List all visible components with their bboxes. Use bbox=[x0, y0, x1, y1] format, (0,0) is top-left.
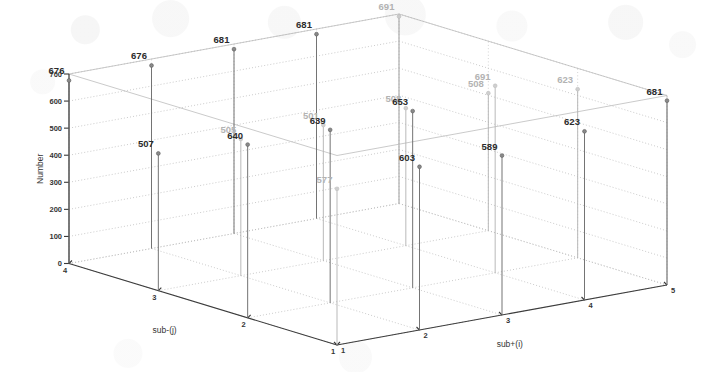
floor-line-i-3 bbox=[234, 234, 502, 316]
stem-j2-i2: 639 bbox=[310, 115, 332, 303]
stem-layer: 6915086236816815086916236815016535896765… bbox=[49, 1, 669, 345]
stem-value-label-j1-i2: 603 bbox=[399, 152, 415, 163]
grid-line-z-400 bbox=[399, 95, 667, 176]
stem-marker-j1-i4 bbox=[583, 129, 587, 133]
z-tick-label-0: 0 bbox=[58, 259, 62, 268]
j-tick-label-2: 2 bbox=[242, 320, 246, 329]
i-tick-label-3: 3 bbox=[506, 316, 510, 325]
stem-value-label-j1-i5: 681 bbox=[647, 86, 664, 97]
stem-j3-i4: 508 bbox=[385, 93, 407, 246]
z-tick-label-200: 200 bbox=[49, 205, 62, 214]
grid-line-z-500 bbox=[399, 68, 667, 149]
floor-line-i-4 bbox=[317, 219, 585, 301]
stem-j4-i2: 676 bbox=[131, 50, 153, 248]
plot-canvas: 6915086236816815086916236815016535896765… bbox=[0, 0, 711, 372]
i-axis-title: sub+(i) bbox=[497, 339, 523, 349]
floor-line-i-5 bbox=[399, 204, 667, 286]
stem-value-label-j4-i3: 681 bbox=[214, 34, 231, 45]
stem-j2-i4: 691 bbox=[475, 71, 497, 273]
i-tick-label-4: 4 bbox=[588, 301, 593, 310]
stem-value-label-j4-i5: 691 bbox=[379, 1, 396, 12]
box-top-back-j bbox=[399, 14, 667, 96]
stem-marker-j2-i5 bbox=[576, 87, 580, 91]
stem-j2-i3: 653 bbox=[392, 96, 414, 288]
j-tick-label-3: 3 bbox=[152, 293, 156, 302]
stem-j3-i1: 507 bbox=[138, 138, 160, 290]
stem-marker-j1-i3 bbox=[500, 154, 504, 158]
grid-line-z-200 bbox=[399, 149, 667, 231]
stem-value-label-j2-i5: 623 bbox=[557, 74, 573, 85]
stem-value-label-j4-i4: 681 bbox=[296, 19, 313, 30]
stem-marker-j2-i4 bbox=[493, 84, 497, 88]
z-axis-title: Number bbox=[35, 153, 45, 183]
stem-value-label-j1-i4: 623 bbox=[564, 116, 580, 127]
tick-label-layer: 0100200300400500600700Number4321sub-(j)1… bbox=[35, 70, 675, 356]
j-axis bbox=[69, 264, 337, 346]
stem-marker-j4-i5 bbox=[397, 15, 401, 19]
stem-marker-j4-i3 bbox=[232, 47, 236, 51]
grid-line-z-300 bbox=[399, 122, 667, 204]
stem-j1-i2: 603 bbox=[399, 152, 421, 330]
grid-line-z-100 bbox=[399, 176, 667, 257]
j-tick-label-4: 4 bbox=[63, 266, 68, 275]
i-tick-label-1: 1 bbox=[341, 346, 345, 355]
stem-j2-i1: 640 bbox=[227, 130, 249, 318]
i-tick-label-5: 5 bbox=[671, 286, 675, 295]
stem-marker-j4-i1 bbox=[67, 79, 71, 83]
j-axis-title: sub-(j) bbox=[153, 325, 177, 335]
stem-value-label-j2-i2: 639 bbox=[310, 115, 326, 126]
stem-marker-j3-i5 bbox=[486, 91, 490, 95]
stem-value-label-j4-i2: 676 bbox=[131, 50, 147, 61]
stem-j1-i1: 577 bbox=[317, 174, 339, 345]
stem-marker-j4-i2 bbox=[150, 64, 154, 68]
stem-value-label-j1-i3: 589 bbox=[482, 141, 498, 152]
stem-marker-j1-i5 bbox=[665, 99, 669, 103]
box-top-left bbox=[69, 74, 337, 156]
z-tick-label-700: 700 bbox=[49, 70, 62, 79]
stem-value-label-j2-i1: 640 bbox=[227, 130, 243, 141]
stem-j3-i5: 508 bbox=[468, 78, 490, 231]
stem-marker-j3-i1 bbox=[156, 152, 160, 156]
stem-marker-j2-i3 bbox=[411, 109, 415, 113]
stem-j3-i2: 505 bbox=[220, 124, 242, 276]
stem-j1-i4: 623 bbox=[564, 116, 586, 300]
stem-j3-i3: 501 bbox=[303, 110, 325, 261]
stem3-figure: 6915086236816815086916236815016535896765… bbox=[0, 0, 711, 372]
i-tick-label-2: 2 bbox=[423, 331, 427, 340]
stem-marker-j2-i2 bbox=[328, 128, 332, 132]
stem-j2-i5: 623 bbox=[557, 74, 579, 258]
stem-marker-j1-i2 bbox=[418, 165, 422, 169]
z-tick-label-300: 300 bbox=[49, 178, 62, 187]
z-tick-label-500: 500 bbox=[49, 124, 62, 133]
floor-line-i-2 bbox=[152, 249, 420, 331]
box-top-right bbox=[337, 96, 667, 156]
z-tick-label-100: 100 bbox=[49, 232, 62, 241]
stem-value-label-j1-i1: 577 bbox=[317, 174, 333, 185]
grid-line-z-600 bbox=[399, 41, 667, 123]
stem-j1-i3: 589 bbox=[482, 141, 504, 315]
stem-marker-j1-i1 bbox=[335, 187, 339, 191]
stem-value-label-j2-i3: 653 bbox=[392, 96, 408, 107]
z-tick-label-400: 400 bbox=[49, 151, 62, 160]
stem-value-label-j3-i1: 507 bbox=[138, 138, 154, 149]
stem-value-label-j2-i4: 691 bbox=[475, 71, 492, 82]
j-tick-label-1: 1 bbox=[331, 347, 335, 356]
z-tick-label-600: 600 bbox=[49, 97, 62, 106]
stem-marker-j2-i1 bbox=[246, 143, 250, 147]
stem-marker-j4-i4 bbox=[315, 32, 319, 36]
